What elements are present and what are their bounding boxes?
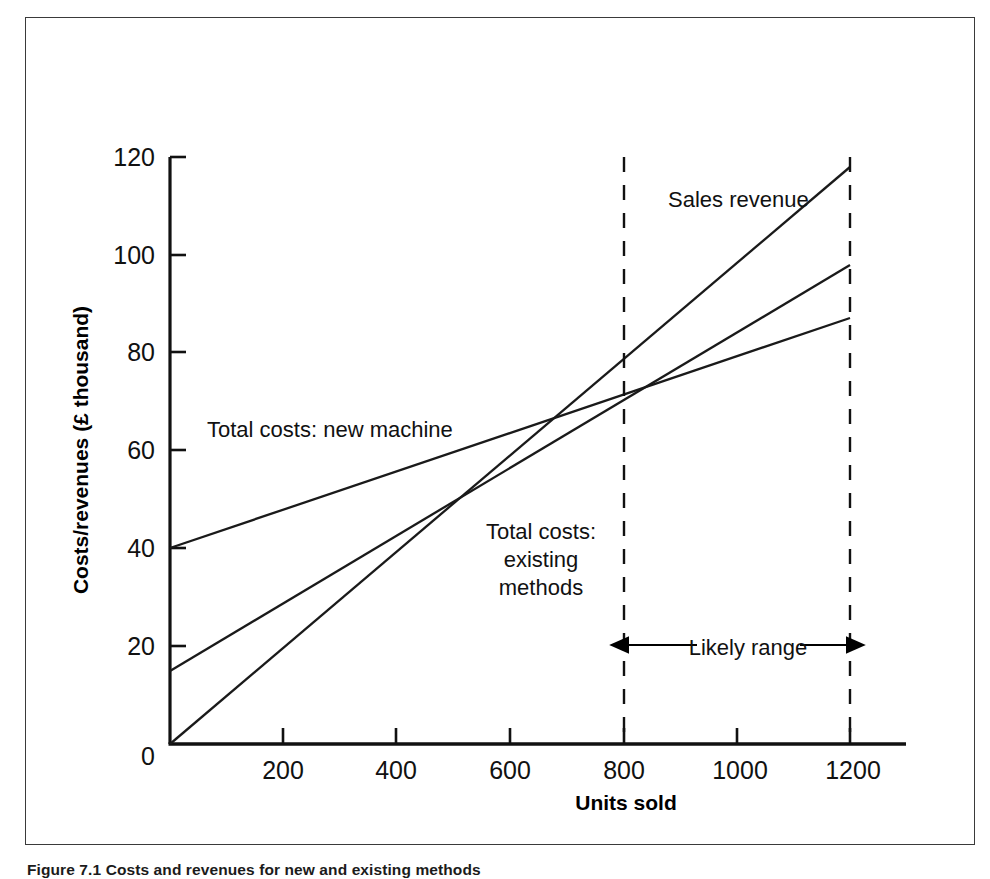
y-tick-label-20: 20 [127, 632, 155, 660]
x-tick-label-600: 600 [489, 756, 531, 784]
annotation-sales-revenue: Sales revenue [668, 187, 809, 212]
x-axis-title: Units sold [575, 791, 677, 814]
x-tick-label-1000: 1000 [712, 756, 768, 784]
annotation-existing-line-2: existing [504, 547, 579, 572]
x-tick-label-400: 400 [375, 756, 417, 784]
y-tick-label-100: 100 [113, 241, 155, 269]
y-tick-label-120: 120 [113, 143, 155, 171]
y-tick-label-80: 80 [127, 338, 155, 366]
x-tick-label-1200: 1200 [825, 756, 881, 784]
annotation-existing-line-3: methods [499, 575, 583, 600]
y-tick-label-60: 60 [127, 436, 155, 464]
annotation-total-costs-existing-methods: Total costs: existing methods [486, 519, 596, 600]
annotation-likely-range: Likely range [689, 635, 808, 660]
annotation-total-costs-new-machine: Total costs: new machine [207, 417, 453, 442]
x-axis-tick-labels: 200 400 600 800 1000 1200 [262, 756, 881, 784]
y-tick-label-0: 0 [141, 742, 155, 770]
x-tick-label-800: 800 [603, 756, 645, 784]
y-tick-label-40: 40 [127, 534, 155, 562]
y-axis-ticks [170, 157, 186, 646]
figure-caption-label: Figure 7.1 [27, 861, 101, 878]
series-total-costs-existing-methods [170, 265, 850, 671]
x-axis-ticks [283, 728, 850, 744]
x-tick-label-200: 200 [262, 756, 304, 784]
figure-caption-text: Costs and revenues for new and existing … [106, 861, 481, 878]
annotation-existing-line-1: Total costs: [486, 519, 596, 544]
y-axis-tick-labels: 120 100 80 60 40 20 0 [113, 143, 155, 770]
y-axis-title: Costs/revenues (£ thousand) [69, 306, 92, 594]
figure-caption: Figure 7.1 Costs and revenues for new an… [27, 861, 967, 879]
